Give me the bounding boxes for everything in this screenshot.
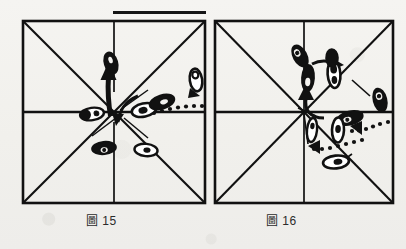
figure-16-panel [212,18,396,206]
figure-16-caption-cjk: 圖 [266,214,279,228]
figure-15-caption: 圖 15 [86,211,117,228]
footprint [79,106,104,122]
footprint [326,49,339,67]
footprint [306,118,318,143]
figure-16-caption-number: 16 [282,214,296,228]
stray-rule-artifact [113,11,206,14]
footprint [371,87,389,113]
figure-15-panel [20,18,208,206]
figure-pair-row: 圖 15 [0,0,406,249]
figure-15-caption-number: 15 [102,214,116,228]
figure-15-caption-cjk: 圖 [86,214,99,228]
figure-15-drawing [20,18,208,206]
footprint [134,143,158,158]
figure-15-footprints [79,51,203,158]
footprint [322,154,349,169]
footprint [332,117,345,142]
figure-16-caption: 圖 16 [266,211,297,228]
footprint [91,141,116,156]
figure-16-drawing [212,18,396,206]
